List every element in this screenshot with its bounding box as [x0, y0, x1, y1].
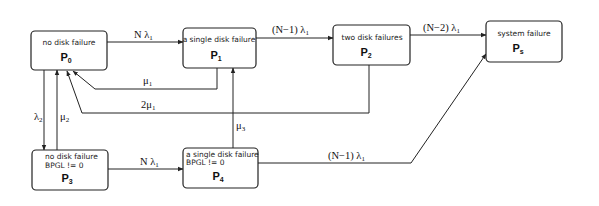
svg-text:λ2: λ2 — [34, 111, 43, 124]
svg-text:(N−2) λ1: (N−2) λ1 — [423, 22, 460, 35]
state-p3: no disk failure BPGL != 0 P3 — [32, 150, 108, 190]
svg-text:no disk failure: no disk failure — [45, 152, 98, 161]
state-p2: two disk failures P2 — [333, 25, 410, 65]
svg-text:N λ1: N λ1 — [134, 29, 153, 42]
svg-text:BPGL != 0: BPGL != 0 — [186, 158, 225, 167]
edge-p3-p0: μ2 — [57, 70, 70, 150]
svg-text:μ2: μ2 — [60, 111, 70, 124]
svg-text:μ1: μ1 — [143, 75, 153, 88]
edge-p4-ps: (N−1) λ1 — [258, 54, 486, 163]
svg-text:(N−1) λ1: (N−1) λ1 — [272, 24, 309, 37]
edge-p1-p2: (N−1) λ1 — [256, 24, 333, 38]
edge-p0-p3: λ2 — [34, 70, 44, 150]
edge-p4-p1: μ3 — [233, 68, 246, 148]
svg-text:a single disk failure: a single disk failure — [183, 35, 256, 44]
svg-text:2μ1: 2μ1 — [141, 99, 156, 112]
svg-text:no disk failure: no disk failure — [43, 38, 96, 47]
svg-text:system failure: system failure — [497, 29, 551, 38]
edge-p3-p4: N λ1 — [108, 156, 183, 169]
svg-text:μ3: μ3 — [236, 120, 246, 133]
state-p1: a single disk failure P1 — [183, 28, 256, 68]
svg-text:BPGL != 0: BPGL != 0 — [45, 161, 84, 170]
svg-text:N λ1: N λ1 — [140, 156, 159, 169]
edge-p0-p1: N λ1 — [107, 29, 183, 42]
state-p4: a single disk failure BPGL != 0 P4 — [183, 148, 259, 188]
svg-text:(N−1) λ1: (N−1) λ1 — [328, 150, 365, 163]
edge-p2-ps: (N−2) λ1 — [410, 22, 486, 35]
state-diagram: N λ1 (N−1) λ1 (N−2) λ1 μ1 2μ1 λ2 μ2 μ3 N… — [0, 0, 599, 206]
state-ps: system failure Ps — [486, 21, 562, 62]
edge-p1-p0: μ1 — [73, 68, 217, 89]
state-p0: no disk failure P0 — [31, 31, 107, 70]
svg-text:two disk failures: two disk failures — [341, 33, 402, 42]
